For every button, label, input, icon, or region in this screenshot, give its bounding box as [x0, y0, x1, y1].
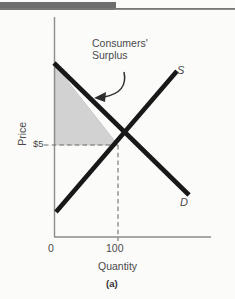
figure-page: Consumers' Surplus Price $5 0 100 Quanti… — [0, 0, 235, 299]
y-axis-label: Price — [17, 104, 29, 164]
annotation-line-1: Consumers' — [92, 37, 148, 49]
consumers-surplus-region — [55, 65, 118, 145]
annotation-arrow — [104, 72, 125, 97]
x-axis-tick-label-quantity: 100 — [106, 243, 124, 255]
supply-curve-label: S — [177, 64, 184, 76]
x-axis-label: Quantity — [98, 261, 137, 273]
consumers-surplus-label: Consumers' Surplus — [92, 38, 148, 62]
y-axis-tick-label-price: $5 — [33, 139, 44, 150]
annotation-line-2: Surplus — [92, 49, 128, 61]
x-axis-origin-label: 0 — [48, 243, 54, 255]
annotation-arrowhead — [94, 92, 106, 102]
panel-label: (a) — [106, 279, 118, 290]
demand-curve-label: D — [180, 196, 188, 208]
